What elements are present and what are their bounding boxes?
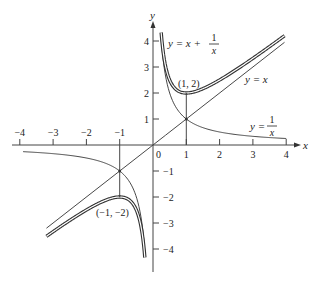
label-inverse: y = 1 x <box>249 114 277 138</box>
x-tick-label: −1 <box>114 127 125 138</box>
x-tick-label: 1 <box>184 149 189 160</box>
x-tick-label: 3 <box>250 149 255 160</box>
y-axis-label: y <box>149 9 155 21</box>
x-axis-arrowhead <box>294 143 301 148</box>
x-tick-label: −4 <box>14 127 25 138</box>
y-tick-label: −4 <box>163 244 174 255</box>
label-x-plus-inverse: y = x + 1 x <box>167 32 219 56</box>
label-inverse-main: y = <box>249 120 265 132</box>
y-tick-label: −3 <box>163 218 174 229</box>
label-x-plus-inverse-num: 1 <box>212 32 217 43</box>
axes-layer <box>12 21 301 272</box>
label-x-plus-inverse-den: x <box>211 45 217 56</box>
y-tick-label: 4 <box>144 36 149 47</box>
origin-label: 0 <box>156 149 161 160</box>
x-tick-label: −2 <box>81 127 92 138</box>
y-tick-label: 1 <box>144 114 149 125</box>
y-axis-arrowhead <box>151 21 156 28</box>
function-plot: −4−3−2−112344321−1−2−3−4 x y 0 y = x + 1… <box>0 0 316 284</box>
x-axis-label: x <box>302 139 308 151</box>
x-tick-label: 4 <box>284 149 289 160</box>
curve-inverse-neg <box>23 152 145 254</box>
label-identity-text: y = x <box>244 73 268 85</box>
intersection-point <box>185 118 188 121</box>
x-tick-label: 2 <box>217 149 222 160</box>
y-tick-label: 3 <box>144 62 149 73</box>
label-x-plus-inverse-main: y = x + <box>167 37 201 49</box>
label-inverse-num: 1 <box>270 114 275 125</box>
label-identity: y = x <box>244 73 268 85</box>
y-tick-label: −2 <box>163 192 174 203</box>
y-tick-label: 2 <box>144 88 149 99</box>
y-tick-label: −1 <box>163 166 174 177</box>
point-label-min: (1, 2) <box>178 78 200 90</box>
point-label-max: (−1, −2) <box>96 207 129 219</box>
label-inverse-den: x <box>269 127 275 138</box>
intersection-point <box>118 170 121 173</box>
x-tick-label: −3 <box>48 127 59 138</box>
